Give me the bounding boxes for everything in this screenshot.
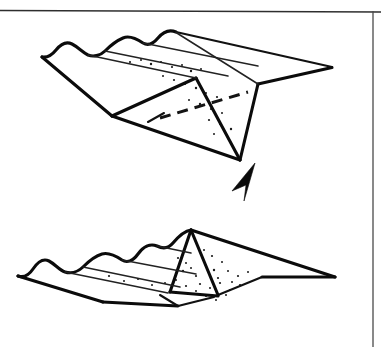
illustration-figure: Paper airplane folding diagram Two-step …: [0, 0, 381, 347]
paper-airplane-diagram-svg: [0, 0, 381, 347]
